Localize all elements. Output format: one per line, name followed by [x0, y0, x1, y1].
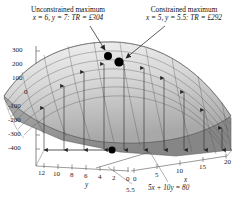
z-tick-m200: -200	[8, 116, 21, 124]
y-axis-line	[36, 166, 129, 171]
constraint-equation-label: 5x + 10y = 80	[148, 184, 189, 192]
unconstrained-maximum-marker	[104, 52, 112, 60]
y-tick-12: 12	[38, 169, 45, 177]
base-edge-left	[36, 150, 44, 166]
constrained-maximum-marker	[114, 57, 123, 66]
y-tick-8: 8	[70, 171, 74, 179]
y-tick-6: 6	[84, 172, 88, 180]
z-tick-0: 0	[24, 88, 28, 96]
x-axis-label: x	[184, 176, 187, 184]
y-axis-label: y	[85, 181, 88, 189]
z-tick-100: 100	[12, 74, 23, 82]
x-tick-0: 0	[133, 175, 137, 183]
y-tick-2: 2	[112, 174, 116, 182]
y-tick-4: 4	[98, 173, 102, 181]
z-tick-m300: -300	[8, 130, 21, 138]
y-tick-0: 0	[126, 175, 130, 183]
base-projection-marker	[108, 146, 115, 153]
z-tick-300: 300	[12, 46, 23, 54]
z-tick-m400: -400	[8, 144, 21, 152]
surface-plot-figure	[0, 0, 246, 205]
x-tick-10: 10	[176, 167, 183, 175]
x-tick-5: 5	[155, 171, 159, 179]
constraint-leader	[150, 152, 168, 182]
y-tick-10: 10	[53, 170, 60, 178]
z-tick-m100: -100	[8, 102, 21, 110]
base-edge-right	[227, 150, 232, 156]
y-tick-5p5: 5.5	[126, 186, 135, 194]
x-tick-20: 20	[224, 158, 231, 166]
z-tick-200: 200	[12, 60, 23, 68]
x-tick-15: 15	[199, 163, 206, 171]
